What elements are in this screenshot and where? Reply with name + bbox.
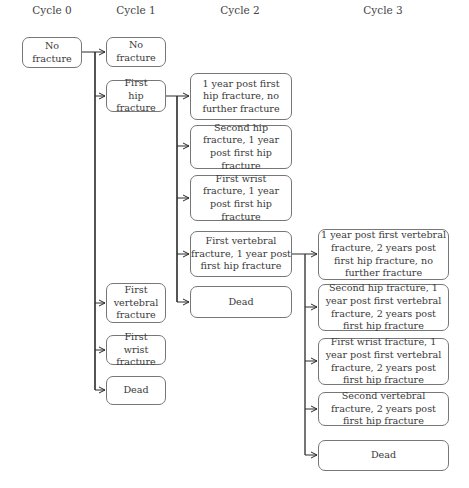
- box-label: First wrist fracture, 1 year post first …: [320, 336, 447, 386]
- cycle1-first-wrist-fracture-box: First wrist fracture: [106, 335, 166, 365]
- cycle1-first-vertebral-fracture-box: First vertebral fracture: [106, 283, 166, 323]
- header-cycle-3: Cycle 3: [343, 4, 423, 16]
- cycle2-no-further-fracture-box: 1 year post first hip fracture, no furth…: [190, 73, 292, 120]
- box-label: First vertebral fracture: [113, 284, 159, 322]
- cycle3-second-vertebral-fracture-box: Second vertebral fracture, 2 years post …: [318, 392, 449, 426]
- box-label: Dead: [123, 384, 148, 397]
- header-cycle-2: Cycle 2: [200, 4, 280, 16]
- box-label: No fracture: [109, 39, 163, 64]
- cycle1-first-hip-fracture-box: First hip fracture: [106, 80, 166, 112]
- cycle3-first-wrist-fracture-box: First wrist fracture, 1 year post first …: [318, 338, 449, 385]
- cycle3-second-hip-fracture-box: Second hip fracture, 1 year post first v…: [318, 284, 449, 331]
- cycle2-second-hip-fracture-box: Second hip fracture, 1 year post first h…: [190, 125, 292, 169]
- box-label: Second vertebral fracture, 2 years post …: [320, 390, 447, 428]
- box-label: First wrist fracture, 1 year post first …: [197, 173, 285, 223]
- cycle1-no-fracture-box: No fracture: [106, 37, 166, 67]
- box-label: First vertebral fracture, 1 year post fi…: [191, 235, 291, 273]
- box-label: Dead: [228, 296, 253, 309]
- box-label: Second hip fracture, 1 year post first v…: [320, 282, 447, 332]
- header-cycle-1: Cycle 1: [96, 4, 176, 16]
- box-label: First wrist fracture: [113, 331, 159, 369]
- cycle1-dead-box: Dead: [106, 376, 166, 405]
- cycle3-dead-box: Dead: [318, 440, 449, 471]
- box-label: Second hip fracture, 1 year post first h…: [197, 122, 285, 172]
- box-label: No fracture: [25, 40, 79, 65]
- cycle2-dead-box: Dead: [190, 286, 292, 318]
- box-label: Dead: [371, 449, 396, 462]
- cycle0-no-fracture-box: No fracture: [22, 37, 82, 68]
- box-label: First hip fracture: [116, 77, 156, 115]
- box-label: 1 year post first hip fracture, no furth…: [199, 78, 283, 116]
- cycle2-first-wrist-fracture-box: First wrist fracture, 1 year post first …: [190, 175, 292, 221]
- box-label: 1 year post first vertebral fracture, 2 …: [321, 229, 446, 279]
- cycle2-first-vertebral-fracture-box: First vertebral fracture, 1 year post fi…: [190, 231, 292, 277]
- cycle3-no-further-fracture-box: 1 year post first vertebral fracture, 2 …: [318, 229, 449, 280]
- header-cycle-0: Cycle 0: [12, 4, 92, 16]
